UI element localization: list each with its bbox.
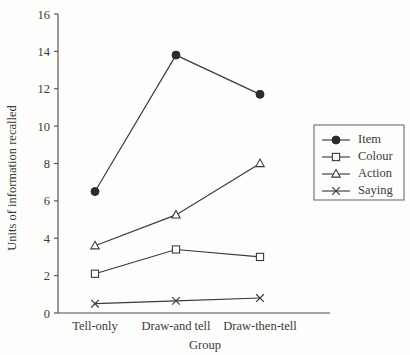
series-colour: [91, 246, 263, 277]
x-tick-label: Draw-then-tell: [223, 319, 297, 333]
data-series-group: [91, 51, 264, 307]
y-tick-label: 6: [44, 194, 50, 208]
y-tick-label: 4: [44, 232, 51, 246]
series-saying: [91, 294, 264, 307]
y-tick-label: 0: [44, 307, 50, 321]
chart-figure: 0246810121416 Tell-onlyDraw-and tellDraw…: [0, 0, 410, 355]
data-point-marker: [172, 210, 180, 218]
data-point-marker: [256, 159, 264, 167]
y-tick-label: 2: [44, 269, 50, 283]
series-action: [91, 159, 264, 249]
data-point-marker: [91, 270, 98, 277]
series-line: [95, 55, 260, 191]
series-line: [95, 164, 260, 246]
x-axis-category-labels: Tell-onlyDraw-and tellDraw-then-tell: [72, 319, 297, 333]
legend-label: Action: [358, 166, 393, 180]
legend-label: Colour: [358, 149, 394, 163]
data-point-marker: [172, 51, 180, 59]
legend-marker-icon: [332, 136, 340, 144]
x-axis-title: Group: [189, 338, 221, 352]
y-axis-ticks: 0246810121416: [38, 8, 59, 321]
x-tick-label: Tell-only: [72, 319, 118, 333]
legend: ItemColourActionSaying: [314, 125, 404, 200]
y-tick-label: 14: [38, 45, 51, 59]
x-tick-label: Draw-and tell: [141, 319, 211, 333]
y-tick-label: 12: [38, 82, 51, 96]
y-tick-label: 10: [38, 120, 51, 134]
data-point-marker: [91, 188, 99, 196]
series-item: [91, 51, 264, 195]
y-axis-title: Units of information recalled: [5, 105, 19, 251]
legend-marker-icon: [332, 153, 339, 160]
y-tick-label: 16: [38, 8, 51, 22]
line-chart: 0246810121416 Tell-onlyDraw-and tellDraw…: [0, 0, 410, 355]
legend-label: Saying: [358, 183, 393, 197]
data-point-marker: [256, 90, 264, 98]
data-point-marker: [256, 253, 263, 260]
legend-label: Item: [358, 132, 381, 146]
y-tick-label: 8: [44, 157, 50, 171]
data-point-marker: [172, 246, 179, 253]
